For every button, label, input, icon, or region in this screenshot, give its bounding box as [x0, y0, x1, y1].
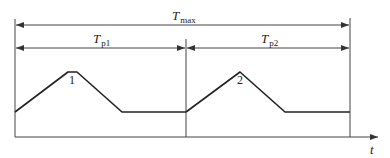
t-p2-label: Tp2 [261, 32, 278, 48]
waveform-cycle-2 [186, 72, 350, 112]
t-max-symbol: T [172, 8, 179, 23]
time-symbol: t [370, 142, 374, 157]
t-p1-symbol: T [93, 31, 100, 46]
t-p1-subscript: p1 [101, 38, 110, 48]
peak-2-label: 2 [237, 74, 243, 86]
waveform-cycle-1 [15, 72, 186, 112]
t-p2-symbol: T [261, 31, 268, 46]
t-max-subscript: max [180, 15, 196, 25]
peak-1-label: 1 [69, 74, 75, 86]
t-p2-subscript: p2 [269, 38, 278, 48]
t-p1-label: Tp1 [93, 32, 110, 48]
t-max-label: Tmax [172, 9, 196, 25]
time-axis-label: t [370, 143, 374, 156]
